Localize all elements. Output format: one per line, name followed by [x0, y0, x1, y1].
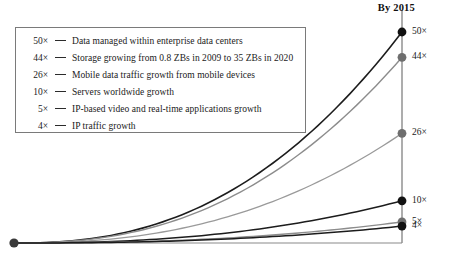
chart-container: By 2015 50× Data managed within enterpri…	[0, 0, 463, 262]
legend-item-50x: 50× Data managed within enterprise data …	[16, 32, 305, 49]
legend-item-5x: 5× IP-based video and real-time applicat…	[16, 100, 305, 117]
legend-label-10x: Servers worldwide growth	[72, 87, 174, 97]
legend-line-swatch-icon	[55, 125, 66, 126]
series-line-26x	[14, 133, 402, 243]
endpoint-marker-10x	[398, 196, 407, 205]
endpoint-label-4x: 4×	[412, 221, 422, 231]
legend-label-26x: Mobile data traffic growth from mobile d…	[72, 70, 255, 80]
legend-value-50x: 50×	[24, 36, 48, 46]
legend-label-4x: IP traffic growth	[72, 121, 136, 131]
legend-value-26x: 26×	[24, 70, 48, 80]
legend-line-swatch-icon	[55, 57, 66, 58]
legend-label-5x: IP-based video and real-time application…	[72, 104, 261, 114]
endpoint-marker-4x	[398, 222, 407, 231]
endpoint-marker-26x	[398, 129, 407, 138]
legend-box: 50× Data managed within enterprise data …	[15, 27, 306, 133]
legend-line-swatch-icon	[55, 40, 66, 41]
chart-title: By 2015	[355, 2, 415, 13]
legend-line-swatch-icon	[55, 74, 66, 75]
legend-item-44x: 44× Storage growing from 0.8 ZBs in 2009…	[16, 49, 305, 66]
endpoint-label-44x: 44×	[412, 52, 427, 62]
legend-value-10x: 10×	[24, 87, 48, 97]
origin-point-marker	[9, 238, 18, 247]
legend-value-4x: 4×	[24, 121, 48, 131]
endpoint-marker-44x	[398, 53, 407, 62]
legend-item-10x: 10× Servers worldwide growth	[16, 83, 305, 100]
legend-label-50x: Data managed within enterprise data cent…	[72, 36, 243, 46]
endpoint-label-50x: 50×	[412, 27, 427, 37]
legend-value-44x: 44×	[24, 53, 48, 63]
endpoint-label-10x: 10×	[412, 196, 427, 206]
legend-value-5x: 5×	[24, 104, 48, 114]
legend-line-swatch-icon	[55, 91, 66, 92]
endpoint-marker-50x	[398, 28, 407, 37]
endpoint-label-26x: 26×	[412, 128, 427, 138]
legend-list: 50× Data managed within enterprise data …	[16, 28, 305, 132]
legend-line-swatch-icon	[55, 108, 66, 109]
legend-label-44x: Storage growing from 0.8 ZBs in 2009 to …	[72, 53, 293, 63]
legend-item-26x: 26× Mobile data traffic growth from mobi…	[16, 66, 305, 83]
legend-item-4x: 4× IP traffic growth	[16, 117, 305, 134]
series-endpoint-markers-group	[398, 28, 407, 231]
